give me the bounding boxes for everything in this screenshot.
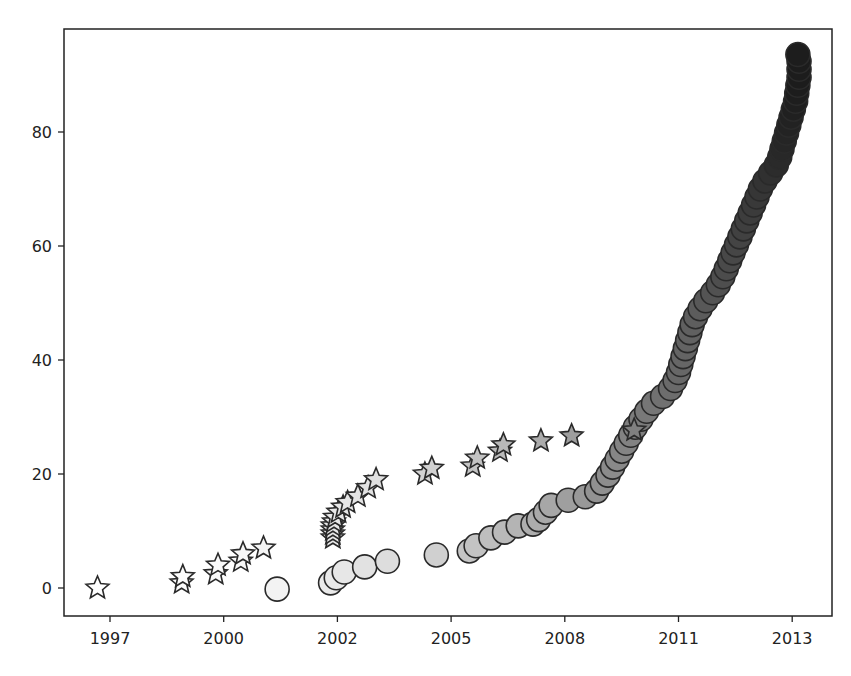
circle-marker — [353, 555, 377, 579]
y-tick-label: 0 — [42, 579, 52, 598]
scatter-chart: 1997200020022005200820112013 020406080 — [0, 0, 851, 676]
circle-marker — [786, 42, 810, 66]
y-tick-label: 60 — [32, 237, 52, 256]
y-tick-label: 40 — [32, 351, 52, 370]
x-tick-label: 2005 — [431, 629, 472, 648]
x-tick-label: 1997 — [90, 629, 131, 648]
x-tick-label: 2000 — [203, 629, 244, 648]
circle-marker — [375, 549, 399, 573]
y-tick-label: 80 — [32, 123, 52, 142]
x-tick-label: 2013 — [772, 629, 813, 648]
y-tick-label: 20 — [32, 465, 52, 484]
x-tick-label: 2011 — [658, 629, 699, 648]
chart-background — [0, 0, 851, 676]
x-tick-label: 2002 — [317, 629, 358, 648]
circle-marker — [265, 577, 289, 601]
circle-marker — [424, 543, 448, 567]
x-tick-label: 2008 — [544, 629, 585, 648]
